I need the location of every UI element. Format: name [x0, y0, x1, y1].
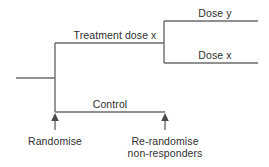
control-branch-label: Control	[93, 98, 128, 110]
randomise-arrow-head	[51, 113, 59, 121]
trial-design-diagram: Treatment dose x Control Dose y Dose x R…	[0, 0, 269, 167]
rerandomise-annotation-line1: Re-randomise	[131, 135, 198, 148]
randomise-annotation-label: Randomise	[28, 135, 82, 147]
treatment-branch-label: Treatment dose x	[74, 29, 157, 41]
rerandomise-arrow-head	[161, 113, 169, 121]
rerandomise-annotation-line2: non-responders	[128, 147, 203, 160]
dose-x-branch-label: Dose x	[198, 49, 231, 61]
dose-y-branch-label: Dose y	[198, 7, 231, 19]
